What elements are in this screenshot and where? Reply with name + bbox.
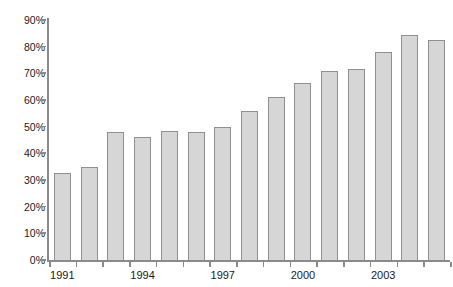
x-axis-tick-mark [290,262,292,267]
x-axis-tick-mark [316,262,318,267]
y-axis-tick-label: 0% [7,255,45,265]
y-axis-tick-label: 30% [7,175,45,185]
y-axis-tick-mark [41,179,46,181]
y-axis-tick-mark [41,72,46,74]
bar [161,131,178,260]
x-axis-tick-mark [423,262,425,267]
y-axis-tick: 20% [0,202,45,212]
y-axis-tick: 10% [0,228,45,238]
x-axis-tick-label: 2003 [363,269,403,282]
x-axis-tick-mark [49,262,51,267]
x-axis-tick-label: 1991 [42,269,82,282]
x-axis-tick-mark [156,262,158,267]
x-axis-tick-mark [397,262,399,267]
x-axis-tick-mark [209,262,211,267]
x-axis-tick-label: 2000 [283,269,323,282]
bar [214,127,231,260]
y-axis-tick-label: 70% [7,68,45,78]
bar-chart: 0%10%20%30%40%50%60%70%80%90% 1991199419… [0,0,453,287]
bar [54,173,71,260]
bar [188,132,205,260]
y-axis-tick-mark [41,152,46,154]
x-axis-tick-label: 1994 [123,269,163,282]
x-axis-tick-mark [370,262,372,267]
y-axis-tick: 80% [0,42,45,52]
y-axis-tick: 70% [0,68,45,78]
x-axis-tick-mark [450,262,452,267]
y-axis-tick-label: 10% [7,228,45,238]
bar [107,132,124,260]
bar [241,111,258,260]
x-axis-tick-mark [343,262,345,267]
bar [134,137,151,260]
y-axis-tick-mark [41,19,46,21]
x-axis-tick-mark [102,262,104,267]
y-axis-tick: 60% [0,95,45,105]
x-axis-tick-mark [263,262,265,267]
y-axis-tick: 40% [0,148,45,158]
y-axis-tick-label: 80% [7,42,45,52]
x-axis-tick-mark [236,262,238,267]
y-axis-tick-label: 40% [7,148,45,158]
y-axis-tick-mark [41,259,46,261]
bar [294,83,311,260]
x-axis-tick-mark [183,262,185,267]
y-axis-tick-label: 90% [7,15,45,25]
bar [81,167,98,260]
bar [375,52,392,260]
y-axis-tick-label: 50% [7,122,45,132]
y-axis-tick-label: 20% [7,202,45,212]
y-axis-tick: 0% [0,255,45,265]
y-axis-tick: 50% [0,122,45,132]
x-axis-tick-label: 1997 [203,269,243,282]
bar [268,97,285,260]
y-axis-tick: 90% [0,15,45,25]
y-axis-tick-mark [41,99,46,101]
x-axis-tick-mark [129,262,131,267]
x-axis-tick-mark [76,262,78,267]
y-axis-tick-mark [41,206,46,208]
y-axis-tick: 30% [0,175,45,185]
y-axis-tick-mark [41,126,46,128]
bar [428,40,445,260]
y-axis-tick-mark [41,46,46,48]
bar [348,69,365,260]
y-axis-tick-mark [41,232,46,234]
y-axis-line [47,18,49,262]
bar [401,35,418,260]
x-axis-line [47,260,450,262]
bar [321,71,338,260]
y-axis-tick-label: 60% [7,95,45,105]
